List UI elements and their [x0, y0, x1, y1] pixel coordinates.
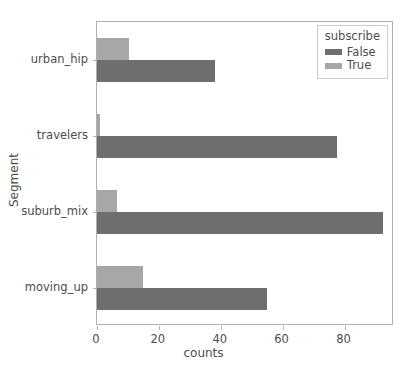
x-axis-title: counts — [0, 346, 407, 360]
legend-swatch-true — [325, 63, 342, 69]
y-tick-mark — [93, 288, 97, 289]
legend-title: subscribe — [325, 30, 380, 44]
legend-label-false: False — [347, 46, 376, 60]
bar-true-suburb_mix — [97, 190, 117, 212]
x-tick-mark — [159, 326, 160, 330]
x-tick-mark — [97, 326, 98, 330]
y-tick-mark — [93, 212, 97, 213]
legend-swatch-false — [325, 49, 342, 55]
legend-entry-false[interactable]: False — [325, 46, 380, 60]
legend-entries: FalseTrue — [325, 46, 380, 73]
y-tick-mark — [93, 60, 97, 61]
y-tick-mark — [93, 136, 97, 137]
x-tick-label-0: 0 — [92, 332, 99, 346]
y-tick-label-moving_up: moving_up — [0, 280, 88, 294]
bar-false-travelers — [97, 136, 337, 158]
y-tick-label-travelers: travelers — [0, 128, 88, 142]
plot-area: subscribe FalseTrue — [96, 21, 393, 325]
legend-entry-true[interactable]: True — [325, 59, 380, 73]
y-tick-label-urban_hip: urban_hip — [0, 52, 88, 66]
x-tick-label-60: 60 — [274, 332, 289, 346]
bar-false-suburb_mix — [97, 212, 383, 234]
bar-true-moving_up — [97, 266, 143, 288]
x-tick-label-40: 40 — [212, 332, 227, 346]
x-tick-label-20: 20 — [151, 332, 166, 346]
x-tick-label-80: 80 — [336, 332, 351, 346]
bar-true-travelers — [97, 114, 100, 136]
legend[interactable]: subscribe FalseTrue — [317, 25, 388, 79]
x-tick-mark — [283, 326, 284, 330]
x-tick-mark — [345, 326, 346, 330]
bar-true-urban_hip — [97, 38, 129, 60]
bar-false-urban_hip — [97, 60, 215, 82]
legend-label-true: True — [347, 59, 371, 73]
bar-false-moving_up — [97, 288, 267, 310]
x-tick-mark — [221, 326, 222, 330]
y-tick-label-suburb_mix: suburb_mix — [0, 204, 88, 218]
bar-chart-figure: Segment urban_hiptravelerssuburb_mixmovi… — [0, 0, 407, 370]
